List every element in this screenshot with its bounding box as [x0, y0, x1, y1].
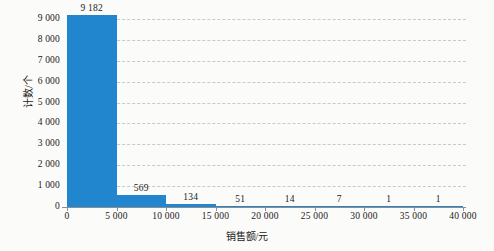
y-tick-label: 9 000 [2, 13, 60, 23]
x-axis-title: 销售额/元 [0, 228, 494, 243]
histogram-chart: 01 0002 0003 0004 0005 0006 0007 0008 00… [0, 0, 494, 251]
gridline [67, 103, 466, 104]
gridline [67, 123, 466, 124]
gridline [67, 82, 466, 83]
y-tick-label: 8 000 [2, 34, 60, 44]
gridline [67, 19, 466, 20]
y-tick-label: 3 000 [2, 138, 60, 148]
bar [67, 15, 117, 207]
y-tick-label: 0 [2, 201, 60, 211]
y-tick-label: 2 000 [2, 159, 60, 169]
bar-value-label: 1 [408, 194, 468, 204]
gridline [67, 40, 466, 41]
y-axis-title: 计数/个 [20, 60, 35, 124]
gridline [67, 61, 466, 62]
y-tick-label: 1 000 [2, 180, 60, 190]
bar [117, 195, 167, 207]
bar-value-label: 9 182 [62, 3, 122, 13]
gridline [67, 144, 466, 145]
gridline [67, 165, 466, 166]
x-axis-line [62, 207, 466, 208]
x-tick-label: 40 000 [433, 211, 493, 221]
